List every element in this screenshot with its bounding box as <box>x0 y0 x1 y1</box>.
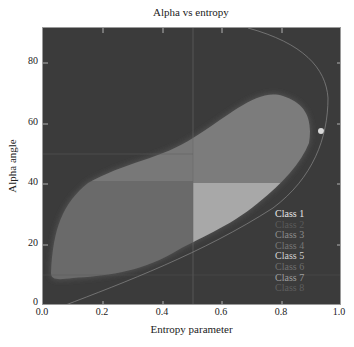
x-tick-0.2: 0.2 <box>87 306 117 317</box>
y-tick-80: 80 <box>8 55 38 66</box>
x-tick-0.8: 0.8 <box>266 306 296 317</box>
x-axis-label: Entropy parameter <box>42 323 341 335</box>
legend-entry-class-1: Class 1 <box>275 209 304 220</box>
legend-entry-class-8: Class 8 <box>275 283 304 294</box>
y-tick-20: 20 <box>8 237 38 248</box>
chart-title: Alpha vs entropy <box>0 6 354 18</box>
y-axis-label: Alpha angle <box>6 116 18 216</box>
legend-entry-class-6: Class 6 <box>275 262 304 273</box>
x-tick-0.6: 0.6 <box>206 306 236 317</box>
x-tick-1.0: 1.0 <box>324 306 354 317</box>
x-tick-0.4: 0.4 <box>147 306 177 317</box>
x-tick-0.0: 0.0 <box>27 306 57 317</box>
legend: Class 1 Class 2 Class 3 Class 4 Class 5 … <box>275 209 304 294</box>
